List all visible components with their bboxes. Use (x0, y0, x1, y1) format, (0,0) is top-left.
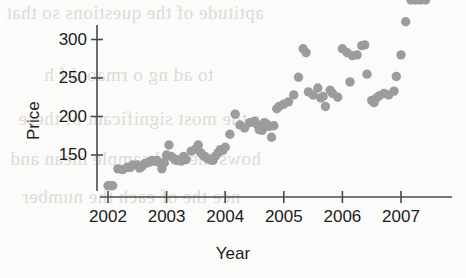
y-tick-label-250: 250 (41, 68, 87, 88)
y-tick-label-300: 300 (41, 30, 87, 50)
x-axis-title: Year (0, 244, 466, 264)
plot-area: 150200250300200220032004200520062007 Pri… (0, 0, 466, 278)
data-point (230, 109, 239, 118)
x-tick-label-2006: 2006 (318, 207, 366, 227)
data-point (313, 83, 322, 92)
figure-scatter-price-vs-year: aptitude of the questions so that to ad … (0, 0, 466, 278)
data-point (221, 143, 230, 152)
data-point (389, 86, 398, 95)
data-point (108, 181, 117, 190)
data-point (345, 77, 354, 86)
x-tick-label-2003: 2003 (143, 207, 191, 227)
y-tick-label-150: 150 (41, 145, 87, 165)
x-tick-label-2005: 2005 (260, 207, 308, 227)
data-point (401, 17, 410, 26)
data-point (225, 130, 234, 139)
data-point (392, 72, 401, 81)
data-point (289, 90, 298, 99)
data-point (362, 69, 371, 78)
data-point (360, 40, 369, 49)
data-point (269, 121, 278, 130)
data-point (333, 93, 342, 102)
y-tick-label-200: 200 (41, 107, 87, 127)
x-tick-label-2002: 2002 (84, 207, 132, 227)
data-point-group (103, 0, 430, 190)
data-point (164, 140, 173, 149)
y-axis-title: Price (24, 101, 44, 140)
data-point (318, 92, 327, 101)
data-point (301, 48, 310, 57)
data-point (267, 133, 276, 142)
data-point (294, 73, 303, 82)
data-point (181, 155, 190, 164)
data-point (396, 50, 405, 59)
x-tick-label-2004: 2004 (201, 207, 249, 227)
x-tick-label-2007: 2007 (377, 207, 425, 227)
data-point (321, 102, 330, 111)
data-point (352, 50, 361, 59)
